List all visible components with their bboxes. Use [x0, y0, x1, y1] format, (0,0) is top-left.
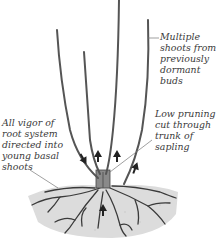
pruning-diagram: Multiple shoots from previously dormant … [0, 0, 217, 247]
label-root-vigor: All vigor of root system directed into y… [2, 117, 63, 172]
shoots [57, 0, 148, 184]
label-low-pruning-cut: Low pruning cut through trunk of sapling [155, 108, 215, 152]
label-multiple-shoots: Multiple shoots from previously dormant … [160, 31, 216, 86]
